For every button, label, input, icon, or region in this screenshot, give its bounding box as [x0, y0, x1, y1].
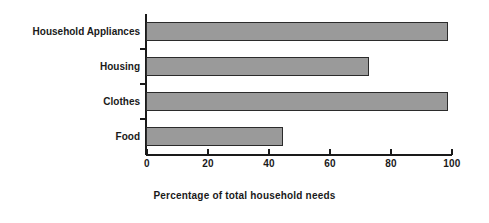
x-axis-tick-label-80: 80 — [385, 158, 397, 169]
bar-housing — [146, 57, 369, 76]
x-axis-tick — [268, 149, 270, 155]
x-axis-tick-label-20: 20 — [202, 158, 214, 169]
bar-chart: Household Appliances Housing Clothes Foo… — [0, 0, 489, 223]
x-axis-title: Percentage of total household needs — [0, 190, 489, 201]
x-axis-tick-label-40: 40 — [263, 158, 275, 169]
x-axis-tick-label-100: 100 — [443, 158, 460, 169]
x-axis-tick — [146, 149, 148, 155]
x-axis-tick-label-0: 0 — [144, 158, 150, 169]
category-label-clothes: Clothes — [0, 96, 140, 107]
x-axis-line — [146, 154, 452, 156]
y-axis-tick — [140, 118, 146, 120]
bar-clothes — [146, 92, 448, 111]
bar-food — [146, 127, 283, 146]
bar-household-appliances — [146, 22, 448, 41]
y-axis-tick — [140, 48, 146, 50]
y-axis-tick — [140, 83, 146, 85]
x-axis-tick — [390, 149, 392, 155]
category-label-housing: Housing — [0, 61, 140, 72]
x-axis-tick — [451, 149, 453, 155]
x-axis-tick — [207, 149, 209, 155]
category-label-household-appliances: Household Appliances — [0, 26, 140, 37]
x-axis-tick-label-60: 60 — [324, 158, 336, 169]
category-label-food: Food — [0, 131, 140, 142]
x-axis-tick — [329, 149, 331, 155]
